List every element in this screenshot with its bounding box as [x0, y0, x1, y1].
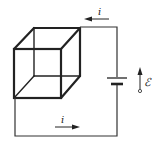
battery [107, 78, 127, 84]
emf-label: ℰ [144, 76, 152, 89]
current-arrow-top: i [84, 6, 109, 22]
emf-arrow: ℰ [138, 67, 153, 93]
wire-cube [14, 28, 80, 98]
current-label-top: i [98, 6, 101, 17]
current-arrow-bottom: i [55, 114, 80, 130]
circuit-diagram: i i ℰ [0, 0, 159, 146]
current-label-bottom: i [61, 114, 64, 125]
